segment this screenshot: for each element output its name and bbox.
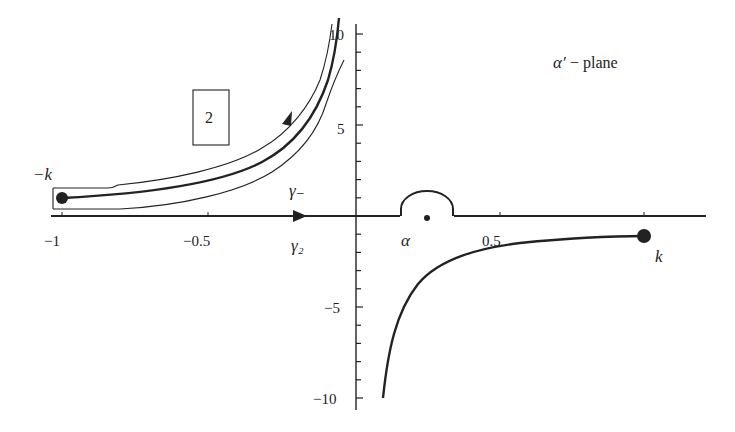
- alpha-label: α: [401, 231, 411, 250]
- plane-text: − plane: [570, 54, 618, 72]
- contour-arrow-icon: [282, 111, 292, 126]
- region-label: 2: [205, 109, 213, 126]
- alpha-indentation: [400, 191, 454, 221]
- minus-k-label: −k: [33, 165, 52, 184]
- region-2-box: 2: [193, 90, 229, 145]
- plane-symbol: α′: [553, 53, 566, 72]
- x-tick-label: −0.5: [183, 233, 210, 249]
- k-label: k: [655, 247, 663, 266]
- k-point: [637, 229, 651, 243]
- x-axis: [51, 212, 706, 216]
- gamma2-arrow-icon: [293, 210, 307, 222]
- x-tick-label: −1: [44, 233, 60, 249]
- alpha-prime-plane-diagram: −1 −0.5 0.5 10 5 −5 −10 2 −k k α γ₋ γ₂ α…: [0, 0, 735, 432]
- plane-title: α′ − plane: [553, 53, 618, 72]
- y-tick-label: 5: [337, 121, 345, 137]
- minus-k-point: [56, 192, 68, 204]
- y-tick-label: −5: [324, 300, 340, 316]
- y-tick-label: −10: [313, 391, 336, 407]
- branch-cut-curve-lower: [383, 236, 644, 398]
- gamma-minus-label: γ₋: [289, 181, 305, 200]
- gamma-2-label: γ₂: [291, 236, 304, 255]
